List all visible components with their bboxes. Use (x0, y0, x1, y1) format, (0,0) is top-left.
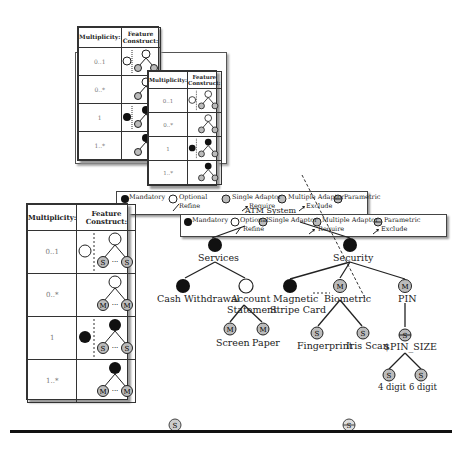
label-services: Services (198, 253, 239, 264)
label-pin: PIN (398, 294, 416, 305)
label-security: Security (333, 253, 373, 264)
node-magnetic-mandatory-icon (283, 279, 297, 293)
svg-text:S: S (403, 332, 408, 340)
label-pin-size: $PIN_SIZE (384, 342, 437, 353)
label-6digit: 6 digit (409, 383, 437, 393)
node-cash-withdrawal-mandatory-icon (176, 279, 190, 293)
node-fingerprint-single-adaptor-icon: S (311, 327, 323, 339)
svg-text:M: M (401, 283, 408, 291)
label-paper: Paper (252, 338, 280, 349)
node-services-mandatory-icon (208, 238, 222, 252)
svg-text:S: S (387, 372, 392, 380)
svg-text:S: S (419, 372, 424, 380)
node-account-statement-optional-icon (239, 279, 253, 293)
svg-text:M: M (226, 326, 233, 334)
label-iris-scan: Iris Scan (346, 341, 389, 352)
label-biometric: Biometric (324, 294, 371, 305)
svg-text:M: M (336, 283, 343, 291)
node-security-mandatory-icon (343, 238, 357, 252)
node-4digit-single-adaptor-icon: S (383, 369, 395, 381)
label-4digit: 4 digit (378, 383, 406, 393)
node-paper-multiple-adaptor-icon: M (257, 323, 269, 335)
feature-tree-graphics: M M M M S S S S S S S (0, 0, 452, 463)
bottom-rule (10, 430, 452, 433)
svg-text:S: S (173, 422, 178, 430)
label-fingerprint: Fingerprint (297, 341, 353, 352)
svg-text:S: S (347, 422, 352, 430)
node-6digit-single-adaptor-icon: S (415, 369, 427, 381)
node-pin-size-parametric-icon: S (399, 329, 411, 341)
node-iris-scan-single-adaptor-icon: S (357, 327, 369, 339)
svg-text:S: S (315, 330, 320, 338)
label-magnetic-line2: Stripe Card (270, 305, 326, 316)
svg-text:S: S (361, 330, 366, 338)
label-screen: Screen (216, 338, 250, 349)
svg-text:M: M (259, 326, 266, 334)
node-biometric-multiple-adaptor-icon: M (334, 280, 347, 293)
node-pin-multiple-adaptor-icon: M (399, 280, 412, 293)
node-screen-multiple-adaptor-icon: M (224, 323, 236, 335)
